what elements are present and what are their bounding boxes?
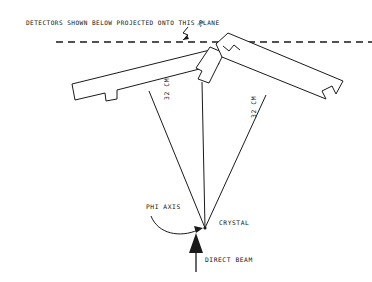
detector-bar-right <box>216 33 343 99</box>
plane-note-label: DETECTORS SHOWN BELOW PROJECTED ONTO THI… <box>26 19 220 26</box>
direct-beam-label: DIRECT BEAM <box>205 256 253 263</box>
note-leader-arrowhead <box>183 35 189 40</box>
distance-label-right: 32 CM <box>250 96 258 118</box>
distance-label-left: 32 CM <box>163 78 171 100</box>
detector-bar-left <box>72 49 219 101</box>
figure-canvas: DETECTORS SHOWN BELOW PROJECTED ONTO THI… <box>0 0 372 282</box>
crystal-point-marker <box>203 226 206 229</box>
phi-axis-arrowhead <box>194 226 203 233</box>
phi-axis-curve <box>151 216 198 234</box>
ray-crystal-to-center-detector <box>202 82 205 228</box>
diagram-vector-layer <box>0 0 372 282</box>
crystal-label: CRYSTAL <box>219 219 249 226</box>
phi-axis-label: PHI AXIS <box>146 203 181 210</box>
direct-beam-arrowhead <box>189 233 203 253</box>
